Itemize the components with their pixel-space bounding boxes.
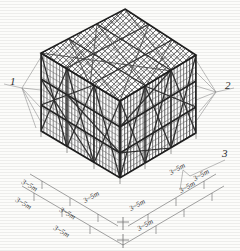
callout-label-3: 3 xyxy=(222,148,228,159)
callout-1-leaders xyxy=(4,57,46,131)
dimension-line-right xyxy=(123,186,224,245)
figure-canvas: 1 2 3 3~5m 3~5m 3~5m 3~5m 3~5m 3~5m 3~5m… xyxy=(0,0,240,251)
dimension-origin-marker-upper xyxy=(117,217,129,230)
structure-drawing xyxy=(0,0,240,251)
callout-label-2: 2 xyxy=(225,80,231,91)
dimension-origin-marker xyxy=(117,234,129,248)
callout-label-1: 1 xyxy=(10,76,16,87)
